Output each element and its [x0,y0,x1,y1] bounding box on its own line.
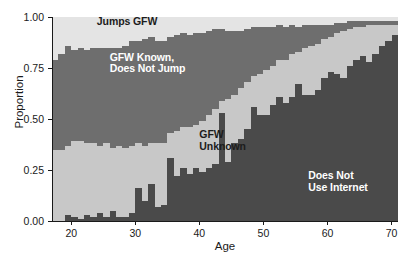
chart-figure: 0.000.250.500.751.00 203040506070 Propor… [0,0,415,259]
y-tick-label-0: 0.00 [4,215,44,227]
x-tick-label-1: 30 [120,227,150,239]
y-tick-label-1: 0.25 [4,164,44,176]
x-tick-label-4: 60 [313,227,343,239]
y-axis-label: Proportion [13,62,25,142]
x-tick-label-2: 40 [184,227,214,239]
x-tick-label-5: 70 [377,227,407,239]
x-tick-label-0: 20 [56,227,86,239]
annotation-0: Jumps GFW [97,16,157,28]
annotation-1: GFW Known, Does Not Jump [110,52,186,75]
y-tick-label-4: 1.00 [4,11,44,23]
x-tick-label-3: 50 [248,227,278,239]
x-axis-label: Age [52,240,398,252]
annotation-3: Does Not Use Internet [308,170,367,193]
annotation-2: GFW Unknown [199,129,246,152]
